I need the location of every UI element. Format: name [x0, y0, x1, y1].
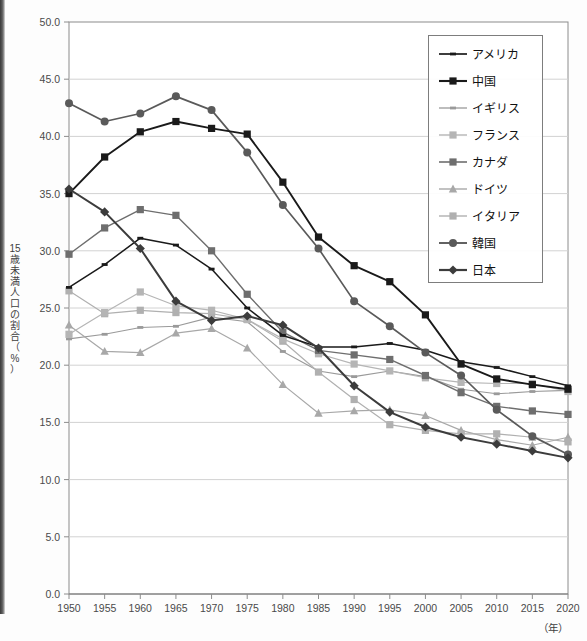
- data-marker: [457, 371, 465, 379]
- data-marker: [529, 381, 536, 388]
- x-tick-label: 1990: [342, 602, 366, 614]
- data-marker: [280, 350, 286, 353]
- y-tick-label: 35.0: [40, 188, 61, 200]
- legend-symbol-icon: [436, 128, 470, 142]
- data-marker: [66, 286, 72, 289]
- data-marker: [315, 245, 323, 253]
- y-tick-label: 15.0: [40, 416, 61, 428]
- data-marker: [528, 432, 536, 440]
- data-marker: [457, 360, 464, 367]
- legend-item[interactable]: カナダ: [429, 148, 542, 175]
- x-tick-label: 1970: [200, 602, 224, 614]
- x-axis-label: （年）: [538, 620, 568, 635]
- data-marker: [350, 297, 358, 305]
- data-marker: [351, 351, 358, 358]
- data-marker: [448, 265, 457, 274]
- data-marker: [564, 411, 571, 418]
- data-marker: [387, 342, 393, 345]
- legend-label: イギリス: [472, 99, 520, 116]
- legend-item[interactable]: 韓国: [429, 229, 542, 256]
- data-marker: [564, 438, 571, 445]
- legend-label: 韓国: [472, 234, 496, 251]
- data-marker: [101, 153, 108, 160]
- data-marker: [173, 325, 179, 328]
- data-marker: [386, 356, 393, 363]
- data-marker: [386, 367, 393, 374]
- y-tick-label: 20.0: [40, 359, 61, 371]
- y-axis-label-char: 割: [7, 320, 23, 331]
- y-axis-label-char: 15: [7, 243, 23, 254]
- data-marker: [351, 375, 357, 378]
- y-axis-label-char: 人: [7, 287, 23, 298]
- data-marker: [457, 389, 464, 396]
- y-axis-label-char: ）: [7, 364, 23, 375]
- x-tick-label: 2000: [414, 602, 438, 614]
- y-tick-label: 45.0: [40, 73, 61, 85]
- y-axis-label: 15歳未満人口の割合（%）: [7, 243, 23, 375]
- data-marker: [102, 263, 108, 266]
- data-marker: [101, 309, 108, 316]
- data-marker: [450, 52, 456, 55]
- data-marker: [65, 251, 72, 258]
- data-marker: [449, 77, 456, 84]
- legend-item[interactable]: アメリカ: [429, 40, 542, 67]
- data-marker: [449, 158, 456, 165]
- data-marker: [65, 99, 73, 107]
- legend-item[interactable]: イタリア: [429, 202, 542, 229]
- data-marker: [101, 224, 108, 231]
- data-marker: [172, 118, 179, 125]
- x-tick-label: 2015: [521, 602, 545, 614]
- data-marker: [279, 179, 286, 186]
- data-marker: [529, 407, 536, 414]
- y-tick-label: 40.0: [40, 130, 61, 142]
- y-tick-label: 50.0: [40, 16, 61, 28]
- data-marker: [386, 322, 394, 330]
- data-marker: [315, 233, 322, 240]
- chart-page: 50.045.040.035.030.025.020.015.010.05.00…: [0, 0, 587, 641]
- data-marker: [315, 368, 322, 375]
- legend-item[interactable]: フランス: [429, 121, 542, 148]
- data-marker: [449, 239, 457, 247]
- x-tick-label: 1950: [57, 602, 81, 614]
- x-tick-label: 1955: [93, 602, 117, 614]
- data-marker: [101, 118, 109, 126]
- data-marker: [493, 406, 501, 414]
- legend-label: 中国: [472, 72, 496, 89]
- legend-symbol-icon: [436, 47, 470, 61]
- data-marker: [493, 375, 500, 382]
- data-marker: [243, 148, 251, 156]
- legend-label: アメリカ: [472, 45, 519, 62]
- data-marker: [457, 379, 464, 386]
- data-marker: [422, 311, 429, 318]
- y-axis-label-char: 歳: [7, 254, 23, 265]
- legend-item[interactable]: イギリス: [429, 94, 542, 121]
- legend-label: イタリア: [472, 207, 520, 224]
- data-marker: [529, 375, 535, 378]
- legend-item[interactable]: ドイツ: [429, 175, 542, 202]
- data-marker: [137, 128, 144, 135]
- data-marker: [102, 333, 108, 336]
- y-axis-label-char: 満: [7, 276, 23, 287]
- data-marker: [244, 291, 251, 298]
- legend-symbol-icon: [436, 236, 470, 250]
- y-axis-label-char: 合: [7, 331, 23, 342]
- data-marker: [494, 366, 500, 369]
- data-marker: [208, 106, 216, 114]
- chart-legend: アメリカ中国イギリスフランスカナダドイツイタリア韓国日本: [428, 35, 543, 283]
- data-marker: [564, 386, 571, 393]
- data-marker: [449, 131, 456, 138]
- legend-symbol-icon: [436, 74, 470, 88]
- legend-item[interactable]: 日本: [429, 256, 542, 283]
- legend-symbol-icon: [436, 263, 470, 277]
- data-marker: [172, 309, 179, 316]
- y-tick-label: 30.0: [40, 245, 61, 257]
- x-tick-label: 2010: [485, 602, 509, 614]
- x-tick-label: 2020: [556, 602, 580, 614]
- data-marker: [351, 262, 358, 269]
- data-marker: [137, 206, 144, 213]
- data-marker: [173, 244, 179, 247]
- legend-label: 日本: [472, 261, 496, 278]
- data-marker: [422, 372, 429, 379]
- legend-item[interactable]: 中国: [429, 67, 542, 94]
- legend-label: カナダ: [472, 153, 508, 170]
